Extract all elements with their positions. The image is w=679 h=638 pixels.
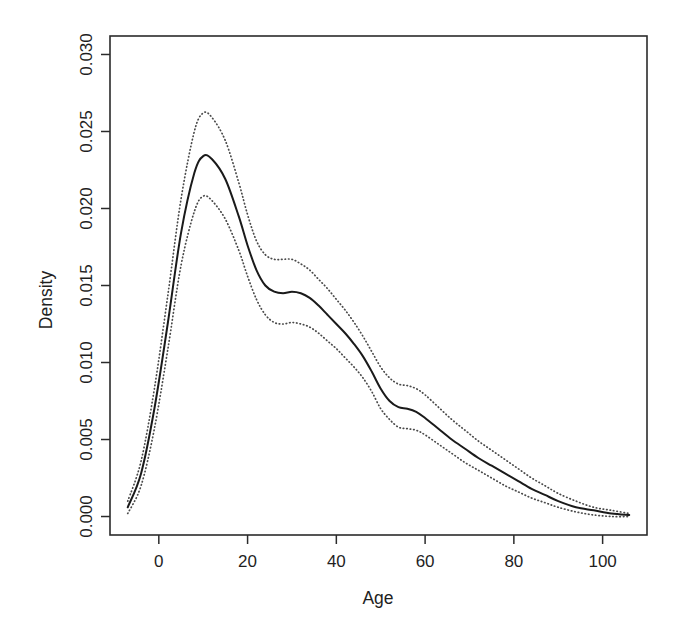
chart-background <box>0 0 679 638</box>
y-axis-title: Density <box>36 271 56 330</box>
x-tick-label: 40 <box>327 552 346 571</box>
chart-canvas: 0.0000.0050.0100.0150.0200.0250.030 0204… <box>0 0 679 638</box>
y-tick-label: 0.010 <box>77 341 96 384</box>
x-tick-label: 100 <box>588 552 616 571</box>
x-tick-label: 0 <box>154 552 163 571</box>
x-axis-title: Age <box>362 588 393 608</box>
x-tick-label: 60 <box>416 552 435 571</box>
x-tick-label: 80 <box>504 552 523 571</box>
y-tick-label: 0.025 <box>77 110 96 153</box>
density-plot-figure: 0.0000.0050.0100.0150.0200.0250.030 0204… <box>0 0 679 638</box>
y-tick-label: 0.015 <box>77 264 96 307</box>
y-tick-label: 0.030 <box>77 33 96 76</box>
y-tick-label: 0.000 <box>77 495 96 538</box>
y-tick-label: 0.005 <box>77 418 96 461</box>
y-tick-label: 0.020 <box>77 187 96 230</box>
x-tick-label: 20 <box>238 552 257 571</box>
